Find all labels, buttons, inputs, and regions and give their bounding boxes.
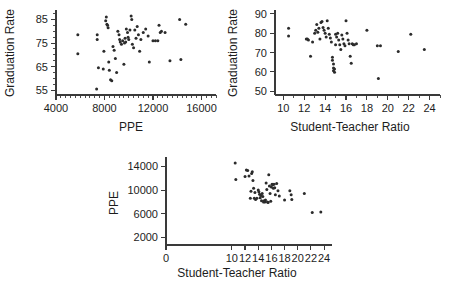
data-point (102, 50, 105, 53)
data-point (343, 44, 346, 47)
x-tick-label: 22 (305, 252, 317, 264)
data-point (316, 31, 319, 34)
y-tick-label: 80 (255, 27, 267, 39)
data-point (397, 50, 400, 53)
data-point (333, 67, 336, 70)
x-tick-label: 16000 (186, 102, 217, 114)
data-point (318, 37, 321, 40)
y-tick-label: 85 (36, 13, 48, 25)
data-point (288, 189, 291, 192)
data-point (244, 175, 247, 178)
chart-2-points (287, 19, 426, 80)
chart-2-canvas: 10121416182022245060708090 Student-Teach… (225, 0, 449, 145)
x-tick-label: 18 (361, 102, 373, 114)
data-point (139, 38, 142, 41)
data-point (313, 32, 316, 35)
data-point (132, 46, 135, 49)
x-tick-label: 20 (292, 252, 304, 264)
data-point (345, 19, 348, 22)
data-point (324, 32, 327, 35)
data-point (234, 161, 237, 164)
x-tick-label: 18 (278, 252, 290, 264)
data-point (253, 191, 256, 194)
data-point (326, 19, 329, 22)
data-point (168, 59, 171, 62)
y-tick-label: 70 (255, 47, 267, 59)
scatterplot-matrix-figure: 40008000120001600055657585 PPE Graduatio… (0, 0, 449, 289)
data-point (251, 170, 254, 173)
data-point (130, 14, 133, 17)
data-point (107, 60, 110, 63)
chart-1-axes: 40008000120001600055657585 (36, 10, 217, 114)
data-point (97, 66, 100, 69)
x-tick-label: 12 (239, 252, 251, 264)
data-point (283, 199, 286, 202)
data-point (133, 29, 136, 32)
data-point (319, 210, 322, 213)
data-point (287, 35, 290, 38)
data-point (337, 38, 340, 41)
data-point (303, 192, 306, 195)
data-point (135, 37, 138, 40)
data-point (252, 187, 255, 190)
data-point (158, 24, 161, 27)
data-point (323, 29, 326, 32)
data-point (178, 18, 181, 21)
data-point (111, 45, 114, 48)
y-tick-label: 2000 (134, 231, 158, 243)
chart-3-points (234, 161, 323, 214)
data-point (107, 26, 110, 29)
data-point (251, 179, 254, 182)
data-point (115, 71, 118, 74)
data-point (118, 33, 121, 36)
data-point (246, 169, 249, 172)
chart-student-teacher-ratio-vs-ppe: 01012141618202224200060001000014000 Stud… (100, 145, 350, 289)
data-point (102, 68, 105, 71)
data-point (330, 40, 333, 43)
chart-3-xlabel: Student-Teacher Ratio (177, 266, 297, 280)
chart-1-labels: PPE Graduation Rate (3, 9, 143, 134)
chart-2-ylabel: Graduation Rate (226, 9, 240, 97)
x-tick-label: 20 (382, 102, 394, 114)
x-tick-label: 14 (319, 102, 331, 114)
y-tick-label: 14000 (127, 160, 158, 172)
data-point (290, 193, 293, 196)
data-point (334, 43, 337, 46)
data-point (349, 55, 352, 58)
data-point (269, 200, 272, 203)
data-point (160, 30, 163, 33)
y-tick-label: 50 (255, 85, 267, 97)
data-point (379, 44, 382, 47)
chart-1-ylabel: Graduation Rate (3, 9, 17, 97)
data-point (120, 43, 123, 46)
data-point (346, 32, 349, 35)
data-point (124, 37, 127, 40)
data-point (423, 48, 426, 51)
y-tick-label: 10000 (127, 184, 158, 196)
data-point (142, 31, 145, 34)
data-point (105, 16, 108, 19)
data-point (332, 63, 335, 66)
x-tick-label: 12000 (138, 102, 169, 114)
data-point (124, 40, 127, 43)
data-point (234, 178, 237, 181)
data-point (309, 55, 312, 58)
data-point (339, 48, 342, 51)
data-point (327, 27, 330, 30)
y-tick-label: 90 (255, 8, 267, 20)
data-point (287, 27, 290, 30)
data-point (269, 192, 272, 195)
data-point (179, 58, 182, 61)
x-tick-label: 24 (318, 252, 330, 264)
data-point (317, 27, 320, 30)
data-point (138, 50, 141, 53)
data-point (276, 189, 279, 192)
chart-ppe-vs-graduation-rate: 40008000120001600055657585 PPE Graduatio… (0, 0, 225, 145)
data-point (255, 197, 258, 200)
data-point (377, 77, 380, 80)
data-point (315, 23, 318, 26)
data-point (365, 29, 368, 32)
x-tick-label: 16 (340, 102, 352, 114)
data-point (136, 25, 139, 28)
data-point (147, 34, 150, 37)
